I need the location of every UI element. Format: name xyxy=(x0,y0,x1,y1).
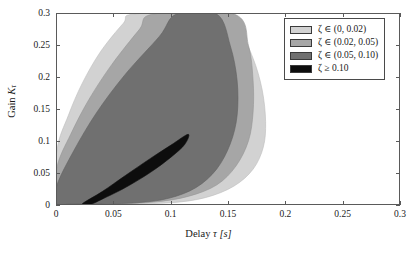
x-tick-5 xyxy=(343,201,344,205)
legend-swatch-1 xyxy=(290,39,312,47)
x-axis-title-text: Delay xyxy=(185,228,210,239)
x-axis-title-symbol: τ xyxy=(213,228,217,239)
y-tick-right-6 xyxy=(396,13,400,14)
y-tick-1 xyxy=(56,173,60,174)
legend-label-2: ζ ∈ (0.05, 0.10) xyxy=(318,50,378,61)
y-tick-right-3 xyxy=(396,109,400,110)
y-tick-label-1: 0.05 xyxy=(16,168,50,178)
y-tick-right-0 xyxy=(396,205,400,206)
x-tick-label-0: 0 xyxy=(36,209,76,219)
x-tick-label-4: 0.2 xyxy=(265,209,305,219)
legend-item-0: ζ ∈ (0, 0.02) xyxy=(290,23,378,36)
legend-item-1: ζ ∈ (0.02, 0.05) xyxy=(290,36,378,49)
y-tick-right-1 xyxy=(396,173,400,174)
y-axis-title-symbol: K xyxy=(6,88,17,95)
y-tick-5 xyxy=(56,45,60,46)
legend-swatch-2 xyxy=(290,52,312,60)
y-tick-label-2: 0.1 xyxy=(16,136,50,146)
y-tick-2 xyxy=(56,141,60,142)
y-tick-right-2 xyxy=(396,141,400,142)
x-axis-title: Delay τ [s] xyxy=(0,228,417,239)
x-axis-title-unit: [s] xyxy=(219,228,231,239)
x-tick-top-1 xyxy=(113,13,114,17)
x-tick-2 xyxy=(171,201,172,205)
legend-item-2: ζ ∈ (0.05, 0.10) xyxy=(290,49,378,62)
y-tick-right-4 xyxy=(396,77,400,78)
y-tick-right-5 xyxy=(396,45,400,46)
x-tick-top-2 xyxy=(171,13,172,17)
y-tick-label-0: 0 xyxy=(16,200,50,210)
y-tick-label-4: 0.2 xyxy=(16,72,50,82)
x-tick-label-3: 0.15 xyxy=(208,209,248,219)
x-tick-label-6: 0.3 xyxy=(380,209,417,219)
legend-label-3: ζ ≥ 0.10 xyxy=(318,63,349,74)
legend-label-0: ζ ∈ (0, 0.02) xyxy=(318,24,366,35)
x-tick-label-2: 0.1 xyxy=(151,209,191,219)
legend-item-3: ζ ≥ 0.10 xyxy=(290,62,378,75)
x-tick-top-3 xyxy=(228,13,229,17)
legend-label-1: ζ ∈ (0.02, 0.05) xyxy=(318,37,378,48)
x-tick-6 xyxy=(400,201,401,205)
legend-swatch-3 xyxy=(290,65,312,73)
y-tick-6 xyxy=(56,13,60,14)
y-axis-title-subscript: τ xyxy=(9,85,18,88)
x-tick-label-5: 0.25 xyxy=(323,209,363,219)
y-axis-title-text: Gain xyxy=(6,97,17,117)
x-tick-1 xyxy=(113,201,114,205)
y-axis-title: Gain Kτ xyxy=(6,61,19,141)
y-tick-label-3: 0.15 xyxy=(16,104,50,114)
x-tick-3 xyxy=(228,201,229,205)
y-tick-label-5: 0.25 xyxy=(16,40,50,50)
x-tick-4 xyxy=(285,201,286,205)
x-tick-top-4 xyxy=(285,13,286,17)
x-tick-label-1: 0.05 xyxy=(93,209,133,219)
figure-container: 00.050.10.150.20.250.3 00.050.10.150.20.… xyxy=(0,0,417,253)
y-tick-label-6: 0.3 xyxy=(16,8,50,18)
x-tick-top-5 xyxy=(343,13,344,17)
legend: ζ ∈ (0, 0.02)ζ ∈ (0.02, 0.05)ζ ∈ (0.05, … xyxy=(284,18,385,80)
y-tick-4 xyxy=(56,77,60,78)
y-tick-0 xyxy=(56,205,60,206)
y-tick-3 xyxy=(56,109,60,110)
x-tick-top-6 xyxy=(400,13,401,17)
legend-swatch-0 xyxy=(290,26,312,34)
